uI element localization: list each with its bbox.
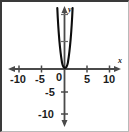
x-tick-label-neg5: -5 [35, 74, 45, 85]
y-tick-label-neg5: -5 [45, 87, 55, 98]
origin-label: 0 [56, 72, 62, 83]
x-tick-label-neg10: -10 [10, 74, 26, 85]
graph-figure: -10 -5 5 10 0 -5 -10 x y [0, 0, 129, 132]
x-axis-label: x [118, 57, 122, 65]
x-tick-label-10: 10 [103, 74, 115, 85]
x-tick-label-5: 5 [84, 74, 90, 85]
y-tick-label-neg10: -10 [38, 109, 54, 120]
coordinate-plane [0, 0, 129, 132]
y-axis-label: y [68, 6, 72, 14]
